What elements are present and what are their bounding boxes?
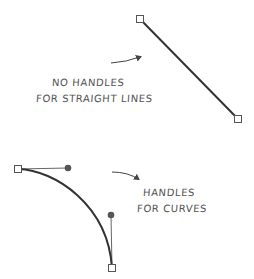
diagram-canvas (0, 0, 254, 279)
anchor-point-icon (235, 116, 242, 123)
arrow-icon (112, 172, 139, 180)
curve-label-line1: HANDLES (143, 188, 196, 198)
anchor-point-icon (15, 166, 22, 173)
handle-dot-icon (108, 212, 115, 219)
straight-line-group (111, 16, 242, 123)
anchor-point-icon (137, 16, 144, 23)
curve-label-line2: FOR CURVES (137, 204, 208, 214)
arrow-icon (111, 57, 141, 64)
curve-group (15, 165, 140, 272)
straight-label-line2: FOR STRAIGHT LINES (36, 94, 153, 104)
straight-path (140, 19, 238, 119)
anchor-point-icon (109, 265, 116, 272)
handle-dot-icon (65, 165, 72, 172)
straight-label-line1: NO HANDLES (52, 78, 125, 88)
curve-path (18, 169, 112, 268)
